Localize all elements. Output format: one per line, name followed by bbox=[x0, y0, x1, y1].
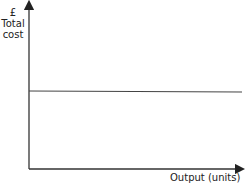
y-axis-label: £ Total cost bbox=[0, 7, 26, 40]
total-cost-line bbox=[29, 91, 242, 92]
y-axis-label-currency: £ bbox=[0, 7, 26, 18]
chart-canvas bbox=[0, 0, 246, 193]
x-axis-label: Output (units) bbox=[170, 172, 240, 183]
y-axis-label-line1: Total bbox=[0, 18, 26, 29]
y-axis-label-line2: cost bbox=[0, 29, 26, 40]
